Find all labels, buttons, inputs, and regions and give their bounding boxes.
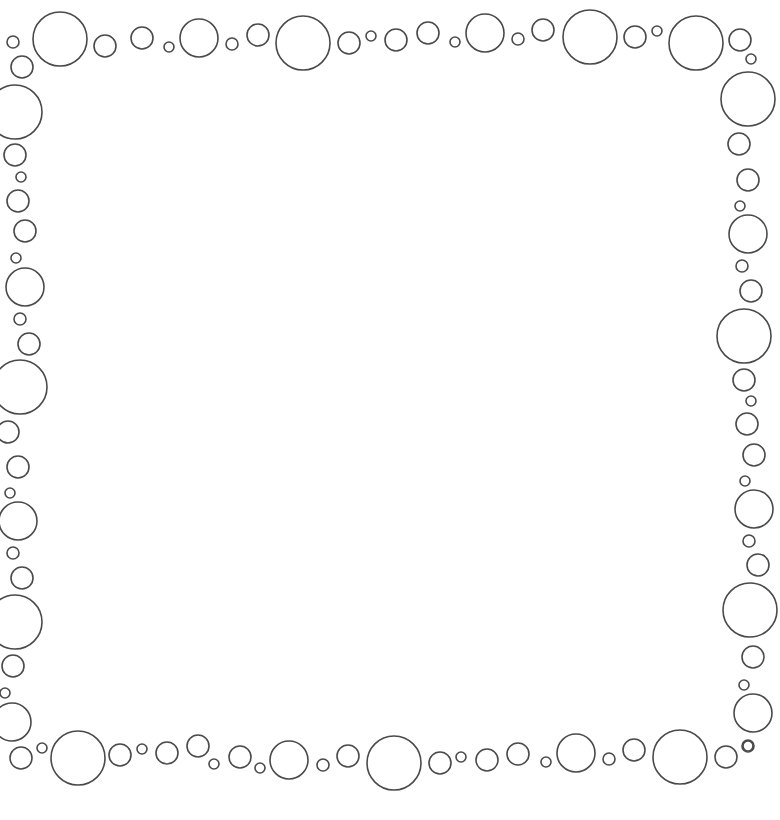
bottom-bubble-2 [109,744,131,766]
bottom-bubble-18 [557,734,595,772]
top-bubble-11 [366,31,376,41]
bottom-bubble-4 [156,742,178,764]
right-bubble-19 [739,680,749,690]
right-bubble-5 [729,215,767,253]
top-bubble-1 [7,36,19,48]
left-bubble-1 [11,56,33,78]
left-bubble-7 [11,253,21,263]
left-bubble-23 [37,743,47,753]
left-bubble-3 [4,144,26,166]
top-bubble-16 [512,33,524,45]
top-bubble-18 [563,10,617,64]
top-bubble-7 [226,38,238,50]
left-bubble-10 [18,333,40,355]
top-bubble-10 [338,32,360,54]
bottom-bubble-10 [317,759,329,771]
right-bubble-18 [742,646,764,668]
top-bubble-4 [131,27,153,49]
left-bubble-20 [0,688,10,698]
left-bubble-19 [2,655,24,677]
left-bubble-8 [6,268,44,306]
left-bubble-18 [0,595,42,649]
top-bubble-13 [417,22,439,44]
left-bubble-9 [14,313,26,325]
left-border [0,56,47,769]
left-bubble-13 [7,456,29,478]
right-bubble-6 [736,260,748,272]
bottom-bubble-8 [255,763,265,773]
right-bubble-11 [736,413,758,435]
right-bubble-2 [728,133,750,155]
right-bubble-20 [734,694,772,732]
top-bubble-3 [94,35,116,57]
bottom-bubble-21 [653,730,707,784]
top-bubble-6 [180,19,218,57]
bottom-bubble-3 [137,744,147,754]
top-bubble-22 [729,29,751,51]
top-bubble-15 [466,14,504,52]
right-bubble-10 [746,396,756,406]
bottom-bubble-19 [603,753,615,765]
left-bubble-17 [11,567,33,589]
right-border [717,72,777,752]
bottom-bubble-7 [229,746,251,768]
right-bubble-7 [740,280,762,302]
bottom-bubble-20 [623,739,645,761]
top-bubble-20 [652,26,662,36]
bottom-bubble-9 [270,741,308,779]
top-bubble-17 [532,19,554,41]
right-bubble-12 [743,444,765,466]
bottom-bubble-23 [743,741,753,751]
bottom-bubble-16 [507,743,529,765]
bottom-bubble-17 [541,757,551,767]
right-bubble-3 [737,169,759,191]
left-bubble-11 [0,360,47,414]
right-bubble-15 [743,535,755,547]
bottom-border [51,730,753,790]
bottom-bubble-13 [429,752,451,774]
top-bubble-21 [669,16,723,70]
left-bubble-6 [14,220,36,242]
left-bubble-14 [5,488,15,498]
right-bubble-14 [735,490,773,528]
bottom-bubble-1 [51,731,105,785]
bottom-bubble-11 [337,745,359,767]
left-bubble-4 [16,172,26,182]
right-bubble-17 [723,583,777,637]
left-bubble-15 [0,502,37,540]
top-bubble-14 [450,37,460,47]
bottom-bubble-12 [367,736,421,790]
top-bubble-12 [385,29,407,51]
top-bubble-9 [276,16,330,70]
bottom-bubble-5 [187,735,209,757]
top-bubble-8 [247,24,269,46]
top-border [7,10,756,70]
left-bubble-21 [0,703,31,741]
left-bubble-12 [0,421,19,443]
right-bubble-9 [733,369,755,391]
right-bubble-4 [735,201,745,211]
top-bubble-19 [624,26,646,48]
left-bubble-2 [0,85,42,139]
bubble-frame [0,0,780,820]
right-bubble-16 [747,554,769,576]
right-bubble-13 [740,476,750,486]
top-bubble-5 [164,42,174,52]
bottom-bubble-14 [456,752,466,762]
left-bubble-22 [10,747,32,769]
right-bubble-8 [717,309,771,363]
right-bubble-1 [721,72,775,126]
bottom-bubble-6 [209,759,219,769]
top-bubble-23 [746,54,756,64]
bottom-bubble-15 [476,749,498,771]
bottom-bubble-22 [715,746,737,768]
left-bubble-5 [7,190,29,212]
top-bubble-2 [33,12,87,66]
left-bubble-16 [7,547,19,559]
